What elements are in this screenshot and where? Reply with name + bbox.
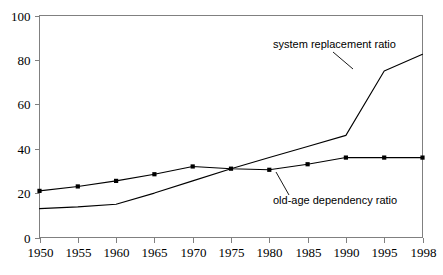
data-point-marker — [382, 155, 386, 159]
y-tick-label: 60 — [18, 97, 31, 112]
x-tick-label: 1980 — [257, 245, 283, 260]
data-point-marker — [114, 179, 118, 183]
data-point-marker — [76, 184, 80, 188]
y-tick-label: 100 — [11, 9, 31, 24]
data-point-marker — [267, 168, 271, 172]
data-point-marker — [306, 162, 310, 166]
x-tick-label: 1985 — [296, 245, 322, 260]
data-point-marker — [344, 155, 348, 159]
line-chart: 020406080100 195019551960196519701975198… — [0, 0, 443, 275]
x-tick-label: 1998 — [411, 245, 437, 260]
x-tick-label: 1965 — [142, 245, 168, 260]
x-tick-label: 1995 — [372, 245, 398, 260]
data-point-marker — [191, 164, 195, 168]
data-point-marker — [229, 167, 233, 171]
data-point-marker — [37, 189, 41, 193]
y-tick-label: 40 — [18, 142, 31, 157]
x-tick-label: 1960 — [104, 245, 130, 260]
x-tick-label: 1975 — [219, 245, 245, 260]
chart-container: 020406080100 195019551960196519701975198… — [0, 0, 443, 275]
y-tick-label: 80 — [18, 53, 31, 68]
x-axis-tick-labels: 1950195519601965197019751980198519901995… — [28, 245, 437, 260]
x-tick-label: 1955 — [66, 245, 92, 260]
x-tick-label: 1950 — [28, 245, 54, 260]
annotation-label-system-replacement-ratio: system replacement ratio — [273, 38, 396, 50]
x-tick-label: 1970 — [181, 245, 207, 260]
annotation-label-old-age-dependency-ratio: old-age dependency ratio — [273, 194, 397, 206]
y-tick-label: 20 — [18, 186, 31, 201]
data-point-marker — [152, 172, 156, 176]
x-tick-label: 1990 — [334, 245, 360, 260]
data-point-marker — [420, 155, 424, 159]
